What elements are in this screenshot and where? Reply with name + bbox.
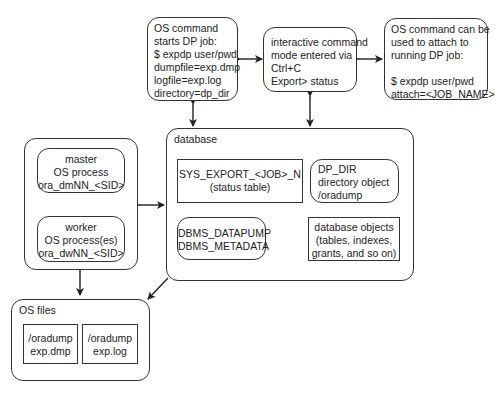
text-line: DP_DIR [318, 163, 398, 176]
text-line: DBMS_METADATA [178, 240, 265, 253]
text-line: (tables, indexes, [309, 234, 399, 247]
text-line: /oradump [83, 332, 137, 345]
text-line: database objects [309, 221, 399, 234]
text-line: master [38, 153, 124, 166]
text-line: Ctrl+C [271, 62, 356, 75]
text-line: /oradump [24, 332, 77, 345]
text-line: OS command can be [391, 23, 487, 36]
text-line: DBMS_DATAPUMP [178, 227, 265, 240]
packages-box: DBMS_DATAPUMP DBMS_METADATA [177, 217, 266, 260]
text-line: /oradump [318, 189, 398, 202]
text-line: directory object [318, 176, 398, 189]
interactive-mode-box: interactive command mode entered via Ctr… [263, 27, 357, 92]
dump-file-box: /oradump exp.dmp [23, 324, 78, 364]
database-label: database [174, 133, 413, 146]
text-line: (status table) [178, 181, 302, 194]
database-objects-box: database objects (tables, indexes, grant… [308, 217, 400, 261]
text-line: mode entered via [271, 49, 356, 62]
text-line [391, 62, 487, 75]
master-process-box: master OS process ora_dmNN_<SID> [37, 148, 125, 193]
text-line: starts DP job: [154, 35, 237, 48]
text-line: attach=<JOB_NAME> [391, 88, 487, 101]
text-line: ora_dwNN_<SID> [38, 247, 124, 260]
status-table-box: SYS_EXPORT_<JOB>_N (status table) [177, 159, 303, 203]
text-line: worker [38, 221, 124, 234]
log-file-box: /oradump exp.log [82, 324, 138, 364]
text-line: used to attach to [391, 36, 487, 49]
dp-dir-box: DP_DIR directory object /oradump [310, 159, 399, 203]
os-command-start-box: OS command starts DP job: $ expdp user/p… [147, 17, 238, 101]
text-line: OS process [38, 166, 124, 179]
text-line: logfile=exp.log [154, 74, 237, 87]
text-line: grants, and so on) [309, 247, 399, 260]
text-line: exp.log [83, 345, 137, 358]
text-line: dumpfile=exp.dmp [154, 61, 237, 74]
os-files-label: OS files [19, 304, 149, 317]
text-line: $ expdp user/pwd [391, 75, 487, 88]
worker-process-box: worker OS process(es) ora_dwNN_<SID> [37, 216, 125, 262]
text-line: Export> status [271, 75, 356, 88]
text-line: SYS_EXPORT_<JOB>_N [178, 168, 302, 181]
text-line: ora_dmNN_<SID> [38, 179, 124, 192]
text-line: $ expdp user/pwd [154, 48, 237, 61]
text-line: OS process(es) [38, 234, 124, 247]
text-line: directory=dp_dir [154, 87, 237, 100]
text-line: exp.dmp [24, 345, 77, 358]
text-line: running DP job: [391, 49, 487, 62]
text-line: interactive command [271, 36, 356, 49]
os-command-attach-box: OS command can be used to attach to runn… [384, 18, 488, 100]
text-line: OS command [154, 22, 237, 35]
